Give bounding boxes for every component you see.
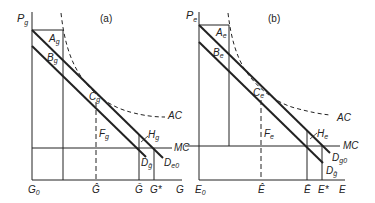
tick-estar: E*: [318, 184, 330, 195]
origin-label-b: E0: [195, 184, 206, 196]
point-f-label: Fg: [99, 128, 109, 141]
ac-label-a: AC: [167, 110, 183, 121]
panel-b: [185, 12, 345, 180]
point-c-label: Ce: [253, 87, 264, 99]
y-axis-label-a: Pg: [17, 12, 28, 27]
point-a-label: Ag: [48, 33, 60, 46]
demand-e0-label: De0: [164, 157, 179, 169]
panel-b-title: (b): [268, 13, 280, 24]
point-f-label: Fe: [264, 128, 274, 140]
mc-label-b: MC: [343, 140, 359, 151]
point-h-label: He: [317, 128, 328, 140]
tick-gstar: G*: [150, 184, 163, 195]
y-axis-label-b: Pe: [186, 9, 197, 23]
ac-curve: [228, 13, 330, 115]
demand-g0-label: Dg0: [332, 152, 347, 165]
ac-label-b: AC: [336, 112, 352, 123]
ac-curve: [61, 13, 165, 117]
diagram-canvas: (a) Pg Ag Bg Cg Fg Hg AC MC Dḡ De0 G0 Ĝ …: [0, 0, 375, 203]
mc-label-a: MC: [174, 142, 190, 153]
demand-curve-e0: [32, 30, 163, 158]
demand-gbar-label: Dḡ: [141, 157, 152, 170]
point-h-label: Hg: [148, 129, 159, 142]
panel-a-title: (a): [100, 13, 112, 24]
demand-gbar-label: Dḡ: [326, 165, 337, 178]
tick-gbar: Ḡ: [135, 183, 143, 195]
point-a-label: Ae: [215, 27, 227, 39]
tick-ehat: Ê: [258, 183, 265, 195]
tick-ghat: Ĝ: [92, 183, 100, 195]
x-axis-label-a: G: [176, 184, 184, 195]
tick-ebar: Ē: [304, 184, 311, 195]
origin-label-a: G0: [28, 184, 40, 196]
x-axis-label-b: E: [339, 184, 346, 195]
